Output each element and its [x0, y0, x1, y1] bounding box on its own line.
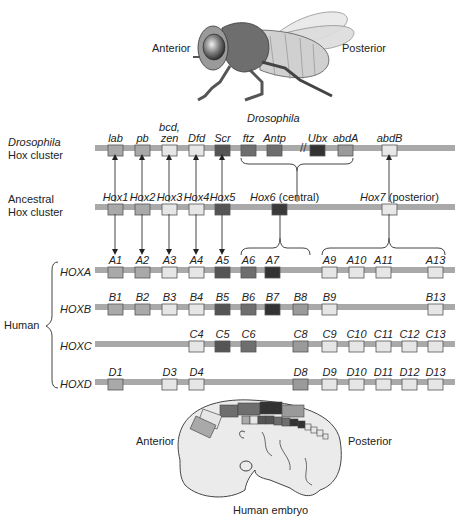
gene-ftz: ftz [241, 132, 256, 156]
gene-label: C13 [425, 328, 446, 340]
gene-label: D11 [374, 366, 393, 378]
gene-box [338, 145, 353, 156]
gene-label: D4 [189, 366, 203, 378]
gene-label: Dfd [188, 132, 206, 144]
gene-box [215, 341, 230, 352]
gene-hox3: Hox3 [157, 191, 184, 215]
gene-label: C4 [189, 328, 203, 340]
gene-d9: D9 [322, 366, 337, 390]
drosophila-cluster-label-line2: Hox cluster [8, 149, 63, 161]
gene-c12: C12 [399, 328, 419, 352]
gene-label: Scr [214, 132, 232, 144]
gene-box [162, 204, 177, 215]
gene-d8: D8 [293, 366, 308, 390]
drosophila-illustration [193, 12, 354, 100]
gene-box [162, 304, 177, 315]
gene-label: pb [135, 132, 148, 144]
gene-b4: B4 [189, 291, 204, 315]
gene-lab: lab [108, 132, 123, 156]
gene-antp: Antp [262, 132, 286, 156]
gene-label: B4 [190, 291, 203, 303]
gene-box [310, 145, 325, 156]
gene-b8: B8 [293, 291, 308, 315]
gene-ubx: Ubx [308, 132, 328, 156]
chromosome-bar [95, 341, 455, 347]
gene-abda: abdA [333, 132, 359, 156]
gene-box [293, 304, 308, 315]
gene-box [322, 304, 337, 315]
gene-box [189, 267, 204, 278]
gene-box [215, 145, 230, 156]
gene-box [376, 267, 391, 278]
gene-label: Hox4 [184, 191, 210, 203]
gene-box [241, 145, 256, 156]
gene-label: B7 [266, 291, 280, 303]
gene-label: D9 [322, 366, 336, 378]
gene-bcdzen: bcd,zen [159, 121, 180, 156]
gene-label: B5 [216, 291, 230, 303]
ancestral-to-human-arrows [115, 214, 222, 252]
gene-c11: C11 [374, 328, 393, 352]
gene-label: abdA [333, 132, 359, 144]
gene-label: D8 [293, 366, 308, 378]
gene-box [189, 379, 204, 390]
cluster-label: HOXD [60, 378, 92, 390]
gene-label: C5 [215, 328, 230, 340]
gene-a6: A6 [241, 254, 256, 278]
gene-label: B8 [294, 291, 308, 303]
gene-a11: A11 [373, 254, 393, 278]
gene-hox2: Hox2 [130, 191, 156, 215]
cluster-label: HOXB [60, 303, 91, 315]
gene-a2: A2 [135, 254, 150, 278]
gene-c4: C4 [189, 328, 204, 352]
gene-label: abdB [377, 132, 403, 144]
gene-b13: B13 [426, 291, 446, 315]
gene-hox6: Hox6 (central) [250, 191, 319, 215]
gene-label: Ubx [308, 132, 328, 144]
gene-label: C9 [322, 328, 336, 340]
gene-b3: B3 [162, 291, 177, 315]
hox6-human-brace [241, 238, 310, 255]
embryo-posterior-label: Posterior [348, 435, 392, 447]
cluster-hoxa: HOXAA1A2A3A4A5A6A7A9A10A11A13 [60, 254, 455, 278]
gene-label: C12 [399, 328, 419, 340]
gene-d4: D4 [189, 366, 204, 390]
fly-caption: Drosophila [247, 112, 300, 124]
gene-box [349, 379, 364, 390]
gene-label: Antp [262, 132, 286, 144]
gene-a9: A9 [322, 254, 337, 278]
gene-box [293, 379, 308, 390]
hox-diagram: Anterior Posterior Drosophila Drosophila… [0, 0, 470, 523]
gene-c9: C9 [322, 328, 337, 352]
fly-posterior-label: Posterior [342, 42, 386, 54]
cluster-hoxb: HOXBB1B2B3B4B5B6B7B8B9B13 [60, 291, 455, 315]
gene-label: C11 [374, 328, 393, 340]
gene-label: B13 [426, 291, 446, 303]
human-clusters: HOXAA1A2A3A4A5A6A7A9A10A11A13HOXBB1B2B3B… [60, 254, 455, 390]
chromosome-bar [95, 379, 455, 385]
gene-label: C6 [241, 328, 256, 340]
gene-d1: D1 [108, 366, 123, 390]
cluster-hoxd: HOXDD1D3D4D8D9D10D11D12D13 [60, 366, 455, 390]
gene-label: lab [108, 132, 123, 144]
gene-b7: B7 [265, 291, 280, 315]
gene-hox7: Hox7 (posterior) [360, 191, 439, 215]
gene-label: A9 [322, 254, 336, 266]
gene-label: D3 [162, 366, 177, 378]
gene-box [402, 341, 417, 352]
gene-box [349, 341, 364, 352]
gene-d12: D12 [399, 366, 419, 390]
gene-box [108, 145, 123, 156]
gene-box [189, 304, 204, 315]
fly-anterior-label: Anterior [152, 42, 191, 54]
gene-box [215, 304, 230, 315]
gene-box [428, 267, 443, 278]
gene-label: D10 [346, 366, 367, 378]
gene-label: B9 [323, 291, 336, 303]
gene-box [402, 379, 417, 390]
gene-a13: A13 [425, 254, 446, 278]
gene-box [293, 341, 308, 352]
gene-box [428, 304, 443, 315]
gene-label: A2 [135, 254, 149, 266]
gene-hox4: Hox4 [184, 191, 210, 215]
